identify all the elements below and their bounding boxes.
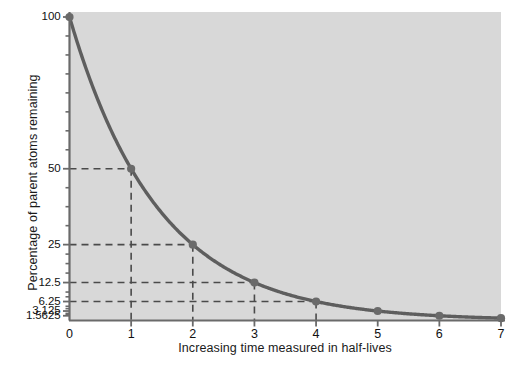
x-axis-title: Increasing time measured in half-lives xyxy=(69,341,501,355)
x-axis-tick-label: 1 xyxy=(121,328,141,341)
x-axis-tick-label: 2 xyxy=(183,328,203,341)
x-axis-tick-label: 4 xyxy=(306,328,326,341)
data-point-marker xyxy=(312,297,320,305)
decay-curve-chart xyxy=(0,0,513,365)
data-point-marker xyxy=(435,312,443,320)
data-point-marker xyxy=(374,307,382,315)
y-axis-tick-label: 100 xyxy=(42,11,61,22)
x-axis-tick-label: 0 xyxy=(60,328,80,341)
data-point-marker xyxy=(127,165,135,173)
x-axis-tick-label: 6 xyxy=(429,328,449,341)
data-point-marker xyxy=(250,278,258,286)
data-point-marker xyxy=(189,241,197,249)
y-axis-title: Percentage of parent atoms remaining xyxy=(22,0,44,365)
y-axis-tick-label: 25 xyxy=(48,239,61,250)
y-axis-tick-label: 50 xyxy=(48,163,61,174)
chart-figure: 100502512.56.253.1251.5625 01234567 Perc… xyxy=(0,0,513,365)
x-axis-tick-label: 7 xyxy=(491,328,511,341)
x-axis-tick-label: 5 xyxy=(368,328,388,341)
x-axis-tick-label: 3 xyxy=(244,328,264,341)
